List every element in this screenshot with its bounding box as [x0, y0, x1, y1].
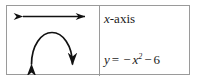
equation-equals: = [110, 52, 121, 67]
graph-sketch-svg [6, 5, 99, 75]
figure-root: x-axis y=−x2−6 [0, 0, 197, 82]
x-axis-label: x-axis [104, 11, 135, 26]
parabola-curve [32, 33, 73, 65]
graph-cell [6, 5, 99, 75]
equation-label: y=−x2−6 [104, 52, 160, 67]
equation-constant: 6 [154, 52, 161, 67]
x-axis-label-suffix: -axis [110, 11, 135, 26]
equation-negative-sign-first: − [121, 52, 132, 67]
equation-lhs: y [104, 52, 110, 67]
equation-negative-sign-second: − [142, 52, 153, 67]
label-cell: x-axis y=−x2−6 [100, 5, 190, 75]
